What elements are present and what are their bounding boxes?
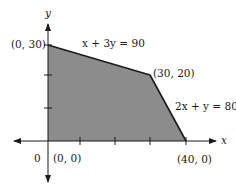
vertex-label-0-0: (0, 0) [53, 152, 81, 164]
feasible-region [48, 45, 186, 141]
origin-label: 0 [34, 152, 41, 164]
vertex-label-30-20: (30, 20) [153, 67, 195, 79]
vertex-label-0-30: (0, 30) [11, 38, 46, 50]
y-axis-label: y [44, 7, 52, 19]
vertex-label-40-0: (40, 0) [177, 153, 212, 165]
feasible-region-diagram: y x 0 (0, 30) (30, 20) (0, 0) (40, 0) x … [0, 0, 236, 195]
constraint-label-2: 2x + y = 80 [175, 100, 236, 112]
x-axis-label: x [221, 134, 227, 146]
constraint-label-1: x + 3y = 90 [82, 37, 145, 49]
